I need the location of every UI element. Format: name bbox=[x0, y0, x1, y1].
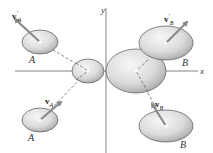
velocity-label-b-after: v′B bbox=[164, 13, 173, 26]
velocity-label-b-before: vB bbox=[155, 100, 163, 111]
label-a-after: A bbox=[29, 55, 35, 65]
label-a-before: A bbox=[28, 133, 34, 143]
label-b-before: B bbox=[180, 140, 186, 150]
x-axis-label: x bbox=[200, 67, 204, 76]
velocity-label-a-before: vA bbox=[45, 97, 53, 108]
velocity-label-a-after: v′A bbox=[12, 10, 21, 23]
impact-diagram bbox=[0, 0, 213, 153]
label-b-after: B bbox=[182, 58, 188, 68]
y-axis-label: y bbox=[101, 6, 105, 15]
